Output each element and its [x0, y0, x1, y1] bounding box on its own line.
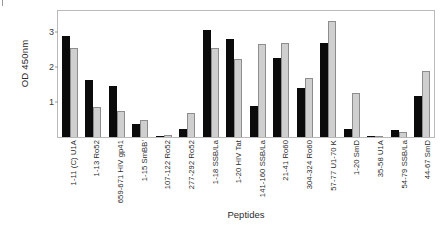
bar-group [293, 11, 317, 137]
x-tick-label: 107-122 Ro52 [163, 140, 172, 189]
bar-gray [375, 136, 383, 137]
bar-group [270, 11, 294, 137]
bar-black [109, 86, 117, 137]
x-label-cell: 44-67 SmD [411, 139, 435, 207]
bar-group [176, 11, 200, 137]
x-label-cell: 21-41 Ro60 [270, 139, 294, 207]
bar-black [62, 36, 70, 137]
bar-gray [422, 71, 430, 137]
x-tick-label: 277-292 Ro52 [187, 140, 196, 189]
bar-gray [93, 107, 101, 137]
x-tick-label: 35-58 U1A [376, 140, 385, 177]
bar-gray [140, 120, 148, 137]
x-tick-label: 54-79 SSB/La [400, 140, 409, 188]
x-label-cell: 1-11 (C) U1A [57, 139, 81, 207]
bar-gray [117, 111, 125, 137]
bar-black [226, 39, 234, 137]
x-label-cell: 659-671 HIV gp41 [104, 139, 128, 207]
bar-gray [164, 135, 172, 137]
x-label-cell: 141-160 SSB/La [246, 139, 270, 207]
x-label-cell: 304-324 Ro60 [293, 139, 317, 207]
x-label-cell: 35-58 U1A [364, 139, 388, 207]
x-label-cell: 1-15 SmBB' [128, 139, 152, 207]
x-label-cell: 107-122 Ro52 [152, 139, 176, 207]
bar-gray [211, 48, 219, 137]
bar-group [364, 11, 388, 137]
x-label-cell: 54-79 SSB/La [388, 139, 412, 207]
bar-black [179, 129, 187, 137]
bar-black [273, 58, 281, 137]
y-tick-mark [55, 67, 58, 68]
bar-group [411, 11, 435, 137]
x-label-cell: 1-20 SmD [341, 139, 365, 207]
bar-black [156, 136, 164, 137]
bar-black [320, 43, 328, 137]
bar-gray [258, 44, 266, 137]
bar-group [340, 11, 364, 137]
x-tick-label: 57-77 U1-70 K [329, 140, 338, 191]
bar-groups [58, 11, 434, 137]
x-axis-labels: 1-11 (C) U1A1-13 Ro52659-671 HIV gp411-1… [57, 139, 435, 207]
plot-inner [58, 11, 434, 137]
x-label-cell: 1-13 Ro52 [81, 139, 105, 207]
x-axis-title: Peptides [57, 209, 435, 220]
bar-black [203, 30, 211, 137]
bar-black [391, 130, 399, 137]
bar-black [297, 88, 305, 137]
chart-figure: OD 450nm 123 1-11 (C) U1A1-13 Ro52659-67… [0, 0, 447, 230]
x-tick-label: 21-41 Ro60 [281, 140, 290, 181]
bar-group [246, 11, 270, 137]
x-tick-label: 1-20 SmD [352, 140, 361, 175]
x-tick-label: 304-324 Ro60 [305, 140, 314, 189]
bar-gray [352, 93, 360, 137]
x-label-cell: 1-18 SSB/La [199, 139, 223, 207]
plot-area: 123 [57, 10, 435, 138]
bar-group [82, 11, 106, 137]
bar-black [250, 106, 258, 137]
x-label-cell: 277-292 Ro52 [175, 139, 199, 207]
y-tick-mark [55, 32, 58, 33]
bar-black [414, 96, 422, 137]
y-tick-mark [55, 102, 58, 103]
bar-black [367, 136, 375, 137]
bar-group [105, 11, 129, 137]
bar-black [85, 80, 93, 137]
x-tick-label: 141-160 SSB/La [258, 140, 267, 197]
bar-black [132, 124, 140, 137]
bar-gray [281, 43, 289, 137]
bar-black [344, 129, 352, 137]
bar-gray [305, 78, 313, 137]
x-tick-label: 1-18 SSB/La [211, 140, 220, 184]
x-label-cell: 1-20 HIV Tat [222, 139, 246, 207]
bar-group [58, 11, 82, 137]
x-tick-label: 1-15 SmBB' [140, 140, 149, 181]
y-axis-title: OD 450nm [19, 19, 30, 109]
bar-gray [328, 21, 336, 137]
bar-group [317, 11, 341, 137]
bar-gray [70, 48, 78, 137]
bar-gray [187, 113, 195, 138]
scan-edge-mark [2, 0, 3, 6]
x-tick-label: 1-11 (C) U1A [69, 140, 78, 185]
x-tick-label: 659-671 HIV gp41 [116, 140, 125, 203]
bar-gray [399, 132, 407, 137]
bar-group [129, 11, 153, 137]
bar-group [199, 11, 223, 137]
bar-group [387, 11, 411, 137]
x-label-cell: 57-77 U1-70 K [317, 139, 341, 207]
bar-group [152, 11, 176, 137]
x-tick-label: 1-20 HIV Tat [234, 140, 243, 183]
x-tick-label: 44-67 SmD [423, 140, 432, 179]
x-tick-label: 1-13 Ro52 [92, 140, 101, 176]
bar-group [223, 11, 247, 137]
bar-gray [234, 59, 242, 137]
